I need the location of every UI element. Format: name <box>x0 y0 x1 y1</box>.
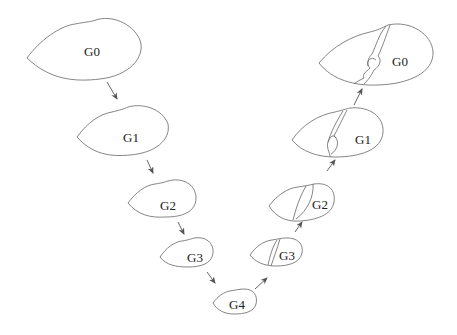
arrow-down-1 <box>107 82 117 99</box>
label-right-g2: G2 <box>312 197 328 212</box>
label-left-g2: G2 <box>160 198 176 213</box>
graph-g4: G4 <box>213 289 257 314</box>
v-cycle-diagram: G0 G1 G2 G3 G4 G3 G2 G1 <box>0 0 457 335</box>
label-right-g0: G0 <box>392 54 408 69</box>
arrow-up-4 <box>354 89 362 105</box>
arrow-down-4 <box>207 272 215 283</box>
graph-left-g2: G2 <box>128 180 196 217</box>
arrow-down-3 <box>178 222 184 234</box>
label-left-g1: G1 <box>123 130 139 145</box>
arrow-up-3 <box>327 160 335 171</box>
label-left-g0: G0 <box>84 44 100 59</box>
label-g4: G4 <box>229 297 245 312</box>
graph-right-g1: G1 <box>292 108 383 157</box>
arrow-up-2 <box>295 222 302 232</box>
graph-left-g0: G0 <box>27 18 141 80</box>
graph-right-g3: G3 <box>250 238 302 266</box>
graph-right-g0: G0 <box>319 24 433 85</box>
label-right-g3: G3 <box>279 248 295 263</box>
label-left-g3: G3 <box>187 250 203 265</box>
arrow-up-1 <box>255 278 267 289</box>
graph-right-g2: G2 <box>269 184 334 221</box>
arrow-down-2 <box>147 160 153 173</box>
graph-left-g1: G1 <box>77 106 168 156</box>
label-right-g1: G1 <box>355 132 371 147</box>
graph-left-g3: G3 <box>160 238 213 267</box>
